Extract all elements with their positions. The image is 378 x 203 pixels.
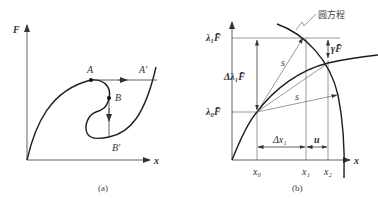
a-label-B-prime: B′ [112, 142, 121, 153]
b-delta-lambda-label: Δλ₁F̄ [223, 71, 245, 82]
b-x-tick-2: x₂ [323, 166, 332, 177]
b-caption: (b) [292, 183, 303, 193]
b-lambda1-label: λ₁F̄ [205, 32, 221, 43]
b-equilibrium-curve [232, 55, 378, 160]
b-x-axis-label: x [353, 155, 359, 166]
a-label-A-prime: A′ [138, 64, 148, 75]
b-s-label-1: s [281, 57, 285, 68]
b-delta-x-label: Δx₁ [272, 134, 287, 145]
b-gamma-label: γF̄ [331, 43, 342, 54]
panel-b: x 圆方程 λ₁F̄ Δλ₁F̄ λ₀F̄ γF̄ s s [205, 9, 378, 193]
a-x-axis-label: x [153, 155, 159, 166]
a-point-B [107, 96, 111, 100]
a-y-axis-label: F [12, 24, 20, 35]
a-label-B: B [115, 92, 121, 103]
b-s-label-2: s [295, 91, 299, 102]
figure: F x A A′ B B′ (a) x [0, 0, 378, 203]
b-arc-label: 圆方程 [318, 9, 345, 20]
b-x-tick-1: x₁ [301, 166, 310, 177]
b-arc-leader [296, 14, 316, 30]
a-label-A: A [86, 64, 94, 75]
b-lambda0-label: λ₀F̄ [205, 106, 221, 117]
b-u-label: u [314, 134, 320, 145]
a-point-A [89, 78, 93, 82]
a-caption: (a) [98, 183, 108, 193]
b-x-tick-0: x₀ [252, 166, 261, 177]
panel-a: F x A A′ B B′ (a) [12, 24, 159, 193]
